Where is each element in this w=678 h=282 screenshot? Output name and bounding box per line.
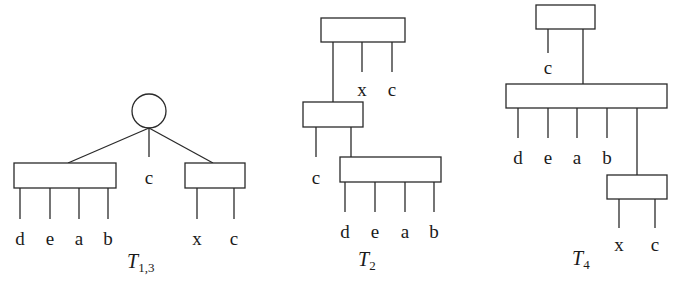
- leaf-label: x: [192, 228, 202, 249]
- leaf-label: c: [651, 234, 659, 255]
- leaf-label: a: [401, 221, 410, 242]
- leaf-label: c: [388, 79, 396, 100]
- leaf-label: a: [573, 147, 582, 168]
- tree-diagrams: c d e a b x c T1,3 x c c d e a: [0, 0, 678, 282]
- right-box-node: [185, 163, 245, 188]
- leaf-label: c: [230, 228, 238, 249]
- leaf-label: x: [614, 234, 624, 255]
- leaf-label: d: [15, 228, 25, 249]
- edge-root-left: [68, 128, 149, 163]
- leaf-label: c: [312, 167, 320, 188]
- leaf-label: b: [103, 228, 113, 249]
- tree-title: T1,3: [127, 250, 154, 275]
- bottom-box-node: [607, 175, 667, 199]
- leaf-label: c: [544, 57, 552, 78]
- leaf-label: d: [340, 221, 350, 242]
- leaf-label: b: [429, 221, 439, 242]
- leaf-label: a: [75, 228, 84, 249]
- tree-t13: c d e a b x c T1,3: [14, 94, 245, 275]
- leaf-label: c: [145, 167, 153, 188]
- top-box-node: [536, 5, 595, 29]
- edge-root-right: [149, 128, 213, 163]
- leaf-label: e: [544, 147, 552, 168]
- tree-title: T2: [358, 248, 376, 273]
- tree-t2: x c c d e a b T2: [303, 18, 441, 273]
- middle-box-node: [506, 84, 667, 108]
- leaf-label: d: [513, 147, 523, 168]
- root-circle-node: [132, 94, 166, 128]
- leaf-label: x: [357, 79, 367, 100]
- left-box-node: [14, 163, 116, 188]
- leaf-label: b: [602, 147, 612, 168]
- top-box-node: [321, 18, 405, 42]
- leaf-label: e: [46, 228, 54, 249]
- bottom-box-node: [340, 157, 441, 182]
- tree-title: T4: [572, 247, 590, 272]
- leaf-label: e: [371, 221, 379, 242]
- middle-box-node: [303, 102, 363, 127]
- tree-t4: c d e a b x c T4: [506, 5, 667, 272]
